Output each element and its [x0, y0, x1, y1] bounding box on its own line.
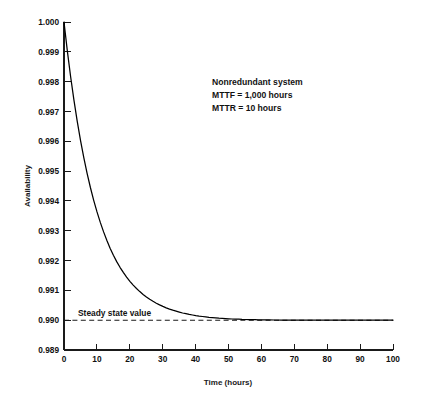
x-axis-title: Time (hours) [204, 378, 253, 387]
x-tick-label: 80 [323, 354, 333, 364]
y-tick-label: 0.998 [38, 77, 59, 87]
steady-state-label: Steady state value [78, 308, 151, 318]
y-tick-label: 0.999 [38, 47, 59, 57]
x-tick-label: 100 [386, 354, 400, 364]
availability-chart: 1.000 0.999 0.998 0.997 0.996 0.995 0.99… [0, 0, 426, 404]
x-tick-label: 90 [355, 354, 365, 364]
x-axis-ticks [64, 344, 393, 350]
x-tick-label: 70 [290, 354, 300, 364]
availability-curve [64, 22, 393, 320]
y-tick-label: 0.997 [38, 107, 59, 117]
y-tick-label: 0.994 [38, 196, 59, 206]
annotation-line-3: MTTR = 10 hours [212, 103, 282, 113]
chart-page: 1.000 0.999 0.998 0.997 0.996 0.995 0.99… [0, 0, 426, 404]
x-tick-label: 50 [224, 354, 234, 364]
x-tick-label: 10 [92, 354, 102, 364]
y-tick-label: 0.993 [38, 226, 59, 236]
x-tick-label: 40 [191, 354, 201, 364]
x-tick-label: 20 [125, 354, 135, 364]
y-tick-label: 0.996 [38, 136, 59, 146]
annotation-line-1: Nonredundant system [212, 77, 303, 87]
y-tick-label: 0.990 [38, 315, 59, 325]
annotation-line-2: MTTF = 1,000 hours [212, 90, 293, 100]
x-tick-label: 60 [257, 354, 267, 364]
x-axis-tick-labels: 0 10 20 30 40 50 60 70 80 90 100 [62, 354, 401, 364]
y-tick-label: 1.000 [38, 17, 59, 27]
y-tick-label: 0.991 [38, 285, 59, 295]
y-tick-label: 0.992 [38, 256, 59, 266]
y-tick-label: 0.989 [38, 345, 59, 355]
axes-group [64, 22, 393, 350]
y-axis-title: Availability [23, 164, 32, 206]
x-tick-label: 30 [158, 354, 168, 364]
annotation-block: Nonredundant system MTTF = 1,000 hours M… [212, 77, 303, 113]
x-tick-label: 0 [62, 354, 67, 364]
y-tick-label: 0.995 [38, 166, 59, 176]
y-axis-tick-labels: 1.000 0.999 0.998 0.997 0.996 0.995 0.99… [38, 17, 59, 355]
